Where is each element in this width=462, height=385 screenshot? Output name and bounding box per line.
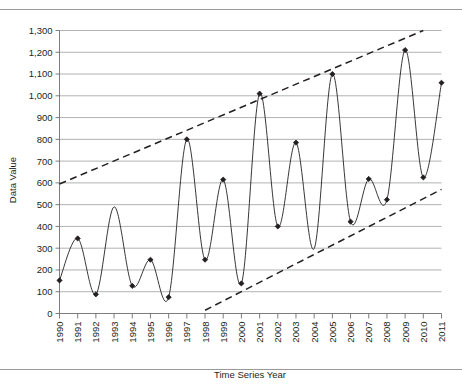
y-axis-tick-label: 1,200	[29, 47, 53, 58]
x-axis-tick-label: 1992	[90, 322, 101, 343]
x-axis-tick-label: 2011	[436, 322, 447, 342]
x-axis-tick-label: 1997	[181, 322, 192, 343]
chart-figure: 01002003004005006007008009001,0001,1001,…	[0, 0, 462, 385]
data-point-marker	[348, 219, 353, 224]
data-point-marker	[366, 176, 371, 181]
x-axis-tick-label: 1995	[145, 322, 156, 343]
y-axis-title: Data Value	[7, 157, 18, 203]
x-axis-tick-label: 2005	[327, 322, 338, 343]
data-point-marker	[421, 175, 426, 180]
x-axis-tick-label: 2010	[418, 322, 429, 343]
data-point-markers	[57, 47, 444, 299]
y-axis-tick-label: 500	[37, 199, 53, 210]
data-point-marker	[130, 283, 135, 288]
y-axis-tick-label: 100	[37, 286, 53, 297]
x-axis-tick-label: 1991	[72, 322, 83, 343]
x-axis-tick-label: 2006	[345, 322, 356, 343]
data-point-marker	[439, 80, 444, 85]
x-axis-tick-label: 2002	[272, 322, 283, 343]
y-axis-tick-label: 0	[47, 308, 52, 319]
x-axis-tick-label: 2003	[290, 322, 301, 343]
y-axis-tick-label: 600	[37, 177, 53, 188]
data-point-marker	[384, 197, 389, 202]
x-axis-tick-label: 2009	[400, 322, 411, 343]
data-series-line	[60, 50, 442, 302]
y-axis: 01002003004005006007008009001,0001,1001,…	[29, 25, 60, 319]
y-axis-tick-label: 700	[37, 156, 53, 167]
x-axis-tick-label: 2007	[363, 322, 374, 343]
x-axis-tick-label: 1996	[163, 322, 174, 343]
x-axis-tick-label: 2000	[236, 322, 247, 343]
y-axis-tick-label: 900	[37, 112, 53, 123]
x-axis-tick-label: 2008	[381, 322, 392, 343]
page-rule-top	[0, 9, 462, 10]
y-axis-tick-label: 800	[37, 134, 53, 145]
y-axis-tick-label: 1,000	[29, 90, 53, 101]
grid-lines	[60, 31, 442, 292]
data-point-marker	[93, 292, 98, 297]
y-axis-tick-label: 1,100	[29, 68, 53, 79]
y-axis-tick-label: 200	[37, 264, 53, 275]
data-point-marker	[239, 281, 244, 286]
x-axis: 1990199119921993199419951996199719981999…	[54, 314, 447, 343]
y-axis-tick-label: 1,300	[29, 25, 53, 36]
time-series-chart: 01002003004005006007008009001,0001,1001,…	[0, 0, 462, 385]
x-axis-title: Time Series Year	[214, 369, 286, 380]
y-axis-tick-label: 300	[37, 243, 53, 254]
trend-lines	[60, 31, 442, 311]
x-axis-tick-label: 2001	[254, 322, 265, 343]
x-axis-tick-label: 1990	[54, 322, 65, 343]
x-axis-tick-label: 1998	[200, 322, 211, 343]
x-axis-tick-label: 2004	[309, 322, 320, 343]
data-point-marker	[275, 224, 280, 229]
data-point-marker	[202, 257, 207, 262]
x-axis-tick-label: 1993	[109, 322, 120, 343]
x-axis-tick-label: 1999	[218, 322, 229, 343]
page-rule-bottom	[0, 369, 462, 370]
x-axis-tick-label: 1994	[127, 322, 138, 343]
y-axis-tick-label: 400	[37, 221, 53, 232]
data-point-marker	[57, 278, 62, 283]
data-point-marker	[166, 295, 171, 300]
